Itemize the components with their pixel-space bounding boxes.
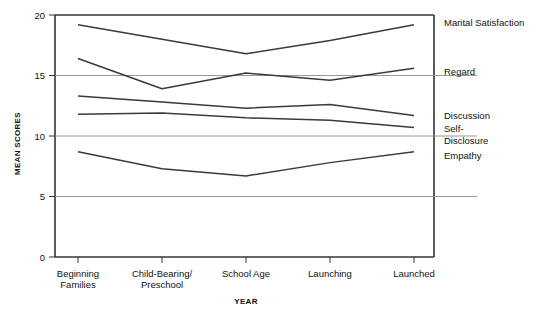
y-tick-10: 10: [34, 131, 45, 142]
x-cat-1-line2: Preschool: [141, 279, 183, 290]
chart-svg: 20 15 10 5 0 MEAN SCORES Beginning Famil…: [0, 0, 537, 312]
x-cat-0-line2: Families: [60, 279, 96, 290]
y-tick-20: 20: [34, 10, 45, 21]
series-label-self-: Self-: [444, 123, 464, 134]
y-axis-title: MEAN SCORES: [13, 112, 22, 175]
x-cat-0-line1: Beginning: [57, 268, 99, 279]
series-label-discussion: Discussion: [444, 110, 490, 121]
x-cat-2: School Age: [222, 268, 270, 279]
series-label-empathy: Empathy: [444, 150, 482, 161]
x-axis-category-labels: Beginning Families Child-Bearing/ Presch…: [57, 268, 435, 290]
series-label-marital-satisfaction: Marital Satisfaction: [444, 17, 524, 28]
line-chart: 20 15 10 5 0 MEAN SCORES Beginning Famil…: [0, 0, 537, 312]
x-axis-title: YEAR: [234, 297, 257, 306]
series-labels: Marital SatisfactionRegardDiscussionSelf…: [444, 17, 524, 161]
series-line-discussion: [78, 96, 414, 115]
x-cat-1-line1: Child-Bearing/: [132, 268, 193, 279]
series-label-disclosure: Disclosure: [444, 135, 488, 146]
y-tick-0: 0: [40, 252, 45, 263]
y-tick-5: 5: [40, 191, 45, 202]
series-line-empathy: [78, 152, 414, 176]
y-tick-15: 15: [34, 70, 45, 81]
series-line-regard: [78, 59, 414, 89]
series-label-regard: Regard: [444, 66, 475, 77]
series-lines: [78, 25, 414, 176]
series-line-self-disclosure: [78, 113, 414, 128]
x-cat-3: Launching: [308, 268, 352, 279]
y-axis-tick-labels: 20 15 10 5 0: [34, 10, 45, 263]
x-cat-4: Launched: [393, 268, 435, 279]
gridlines: [55, 76, 477, 197]
y-axis-ticks: [49, 15, 55, 257]
x-axis-ticks: [78, 257, 414, 263]
series-line-marital-satisfaction: [78, 25, 414, 54]
